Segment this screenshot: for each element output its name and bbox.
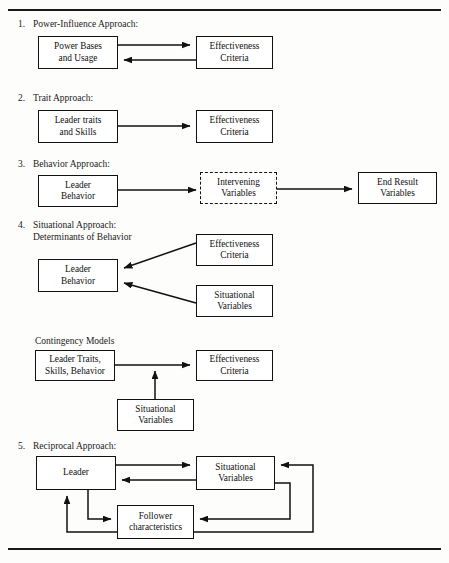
node-leader-traits-and-skills: Leader traits and Skills	[38, 110, 118, 143]
node-leader-behavior-3: Leader Behavior	[38, 175, 118, 207]
wire-s4-situational-to-leader	[124, 283, 196, 303]
node-label: Follower characteristics	[127, 511, 184, 534]
node-follower-characteristics: Follower characteristics	[117, 505, 194, 539]
wire-s5-leader-to-follower	[88, 490, 111, 519]
node-leader-5: Leader	[36, 456, 116, 490]
node-label: Effectiveness Criteria	[208, 354, 262, 377]
node-leader-behavior-4: Leader Behavior	[38, 259, 118, 292]
node-label: Leader	[61, 467, 91, 478]
node-label: Leader traits and Skills	[53, 115, 104, 138]
node-label: Leader Behavior	[59, 264, 97, 287]
node-label: Situational Variables	[213, 462, 257, 485]
wire-s4-effectiveness-to-leader	[124, 243, 196, 268]
node-label: Intervening Variables	[215, 177, 262, 200]
node-label: Power Bases and Usage	[52, 41, 104, 64]
node-label: Effectiveness Criteria	[208, 239, 262, 262]
node-label: Situational Variables	[212, 290, 256, 313]
node-label: Effectiveness Criteria	[208, 115, 262, 138]
node-situational-variables-contingency: Situational Variables	[117, 399, 194, 431]
node-power-bases-and-usage: Power Bases and Usage	[38, 36, 118, 69]
node-end-result-variables: End Result Variables	[358, 172, 437, 204]
node-label: Situational Variables	[133, 404, 177, 427]
node-effectiveness-criteria-contingency: Effectiveness Criteria	[196, 350, 273, 381]
node-label: End Result Variables	[375, 177, 420, 200]
node-label: Leader Behavior	[59, 180, 97, 203]
node-situational-variables-4: Situational Variables	[196, 285, 273, 317]
node-label: Leader Traits, Skills, Behavior	[43, 354, 107, 377]
node-situational-variables-5: Situational Variables	[196, 456, 275, 490]
diagram-page: 1. Power-Influence Approach: Power Bases…	[0, 0, 449, 563]
node-effectiveness-criteria-1: Effectiveness Criteria	[196, 36, 273, 69]
node-intervening-variables: Intervening Variables	[200, 172, 277, 204]
node-label: Effectiveness Criteria	[208, 41, 262, 64]
node-effectiveness-criteria-2: Effectiveness Criteria	[196, 110, 273, 143]
wire-s5-follower-to-leader	[67, 496, 117, 532]
node-effectiveness-criteria-4: Effectiveness Criteria	[196, 234, 273, 266]
node-leader-traits-skills-behavior: Leader Traits, Skills, Behavior	[35, 350, 115, 381]
